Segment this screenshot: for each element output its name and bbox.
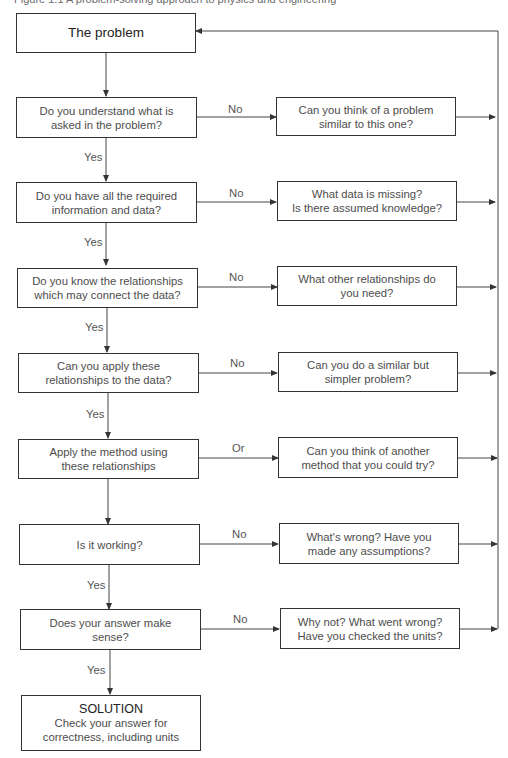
- alternative-text-line: What's wrong? Have you: [306, 530, 431, 544]
- alternative-text-line: Can you do a similar but: [307, 358, 429, 372]
- alternative-text-line: you need?: [341, 286, 394, 300]
- alternative-box-other-relationships: What other relationships do you need?: [277, 266, 457, 306]
- alternative-box-similar-problem: Can you think of a problem similar to th…: [276, 97, 456, 136]
- alternative-text-line: Why not? What went wrong?: [298, 615, 442, 629]
- down-label-yes: Yes: [87, 664, 105, 676]
- question-text-line: sense?: [92, 630, 128, 644]
- alternative-text-line: similar to this one?: [319, 117, 413, 131]
- question-text-line: asked in the problem?: [51, 118, 162, 132]
- question-text-line: these relationships: [61, 459, 155, 473]
- branch-label-no: No: [228, 103, 242, 115]
- alternative-text-line: made any assumptions?: [308, 544, 430, 558]
- solution-title: SOLUTION: [79, 702, 143, 716]
- question-text-line: Is it working?: [77, 538, 143, 552]
- alternative-text-line: Can you think of another: [306, 444, 429, 458]
- branch-label-no: No: [229, 271, 243, 283]
- alternative-box-whats-wrong: What's wrong? Have you made any assumpti…: [279, 523, 459, 564]
- down-label-yes: Yes: [84, 151, 102, 163]
- question-box-relationships: Do you know the relationships which may …: [17, 268, 198, 308]
- alternative-text-line: What data is missing?: [312, 187, 423, 201]
- branch-label-or: Or: [232, 442, 245, 454]
- branch-label-no: No: [229, 187, 243, 199]
- down-label-yes: Yes: [87, 579, 105, 591]
- question-text-line: Can you apply these: [57, 359, 160, 373]
- question-box-is-working: Is it working?: [19, 524, 200, 565]
- solution-text-line: correctness, including units: [43, 730, 179, 744]
- down-label-yes: Yes: [85, 321, 103, 333]
- start-label: The problem: [68, 26, 144, 40]
- alternative-box-simpler-problem: Can you do a similar but simpler problem…: [278, 352, 458, 392]
- question-text-line: information and data?: [52, 203, 161, 217]
- question-box-apply-relationships: Can you apply these relationships to the…: [18, 353, 199, 393]
- question-text-line: relationships to the data?: [45, 373, 171, 387]
- down-label-yes: Yes: [86, 408, 104, 420]
- question-box-required-data: Do you have all the required information…: [16, 182, 197, 223]
- alternative-text-line: Can you think of a problem: [298, 103, 433, 117]
- question-box-understand: Do you understand what is asked in the p…: [16, 97, 197, 138]
- alternative-box-missing-data: What data is missing? Is there assumed k…: [277, 181, 457, 221]
- alternative-text-line: Have you checked the units?: [297, 629, 442, 643]
- start-box-the-problem: The problem: [16, 13, 196, 53]
- alternative-text-line: Is there assumed knowledge?: [292, 201, 442, 215]
- process-box-apply-method: Apply the method using these relationshi…: [18, 439, 199, 479]
- alternative-box-another-method: Can you think of another method that you…: [278, 437, 458, 478]
- solution-text-line: Check your answer for: [54, 716, 167, 730]
- branch-label-no: No: [232, 528, 246, 540]
- solution-box: SOLUTION Check your answer for correctne…: [21, 695, 201, 751]
- branch-label-no: No: [230, 357, 244, 369]
- question-text-line: Does your answer make: [50, 616, 172, 630]
- alternative-box-why-not: Why not? What went wrong? Have you check…: [280, 608, 460, 649]
- alternative-text-line: What other relationships do: [298, 272, 436, 286]
- question-text-line: Apply the method using: [49, 445, 167, 459]
- down-label-yes: Yes: [84, 236, 102, 248]
- branch-label-no: No: [233, 613, 247, 625]
- question-text-line: Do you understand what is: [40, 104, 174, 118]
- question-text-line: which may connect the data?: [34, 288, 180, 302]
- question-text-line: Do you know the relationships: [32, 274, 183, 288]
- alternative-text-line: method that you could try?: [301, 458, 434, 472]
- alternative-text-line: simpler problem?: [325, 372, 412, 386]
- question-box-makes-sense: Does your answer make sense?: [20, 609, 201, 650]
- question-text-line: Do you have all the required: [36, 189, 177, 203]
